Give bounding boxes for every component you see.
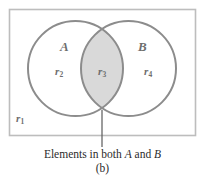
caption-conjunction-text: and xyxy=(132,148,154,160)
set-a-label: A xyxy=(60,40,69,53)
region-r2-subscript: 2 xyxy=(60,70,64,79)
region-label-r3: r3 xyxy=(98,66,106,77)
set-b-label: B xyxy=(138,40,147,53)
region-r4-base: r xyxy=(144,65,148,77)
caption-set-a: A xyxy=(125,148,132,160)
region-r3-base: r xyxy=(98,65,102,77)
figure-part-label: (b) xyxy=(0,162,205,175)
region-label-r2: r2 xyxy=(55,66,63,77)
region-r1-base: r xyxy=(16,112,20,124)
region-label-r4: r4 xyxy=(144,66,152,77)
region-r3-subscript: 3 xyxy=(103,70,107,79)
caption-prefix-text: Elements in both xyxy=(44,148,125,160)
region-r2-base: r xyxy=(55,65,59,77)
region-r4-subscript: 4 xyxy=(149,70,153,79)
venn-diagram-figure: A B r1 r2 r3 r4 Elements in both A and B… xyxy=(0,0,205,180)
region-label-r1: r1 xyxy=(16,113,24,124)
caption-set-b: B xyxy=(154,148,161,160)
figure-caption: Elements in both A and B xyxy=(0,148,205,161)
region-r1-subscript: 1 xyxy=(21,117,25,126)
